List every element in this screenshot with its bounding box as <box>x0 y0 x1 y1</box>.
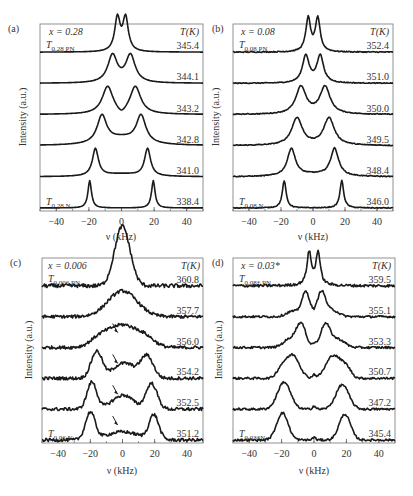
temperature-label: 356.0 <box>177 336 200 347</box>
x-tick-label: 0 <box>312 448 317 459</box>
x-tick-label: 20 <box>340 216 350 227</box>
x-tick-label: −20 <box>81 216 97 227</box>
panel-label: (d) <box>212 257 224 269</box>
temperature-label: 360.8 <box>177 274 200 285</box>
y-axis-label: Intensity (a.u.) <box>213 321 225 380</box>
temperature-label: 346.0 <box>367 196 390 207</box>
temperature-label: 350.0 <box>367 103 390 114</box>
top-transition-label: T0.08 PN <box>239 39 268 53</box>
x-tick-label: 20 <box>341 448 351 459</box>
temperature-label: 357.7 <box>177 305 200 316</box>
temperature-label: 355.1 <box>369 305 392 316</box>
x-axis-label: ν (kHz) <box>106 231 136 243</box>
temp-header: T(K) <box>372 260 392 272</box>
x-axis-label: ν (kHz) <box>299 465 329 477</box>
y-axis-label: Intensity (a.u.) <box>17 88 29 147</box>
x-tick-label: 40 <box>182 448 192 459</box>
panel-a: (a) x = 0.28 T(K) Intensity (a.u.) ν (kH… <box>8 14 203 243</box>
temperature-label: 352.5 <box>177 397 200 408</box>
temperature-label: 344.1 <box>177 71 200 82</box>
temperature-label: 347.2 <box>369 397 392 408</box>
panel-label: (a) <box>8 23 19 35</box>
y-axis-label: Intensity (a.u.) <box>23 321 35 380</box>
temperature-label: 349.5 <box>367 134 390 145</box>
temperature-label: 342.8 <box>177 134 200 145</box>
x-tick-label: −40 <box>50 448 66 459</box>
temperature-label: 343.2 <box>177 103 200 114</box>
panel-label: (b) <box>212 23 224 35</box>
temperature-label: 348.4 <box>367 165 390 176</box>
arrow-head-icon <box>114 359 118 363</box>
x-tick-label: −40 <box>48 216 64 227</box>
arrow-head-icon <box>114 390 118 394</box>
temperature-label: 359.5 <box>369 274 392 285</box>
temperature-label: 352.4 <box>367 40 390 51</box>
composition-label: x = 0.28 <box>48 26 83 37</box>
temperature-label: 354.2 <box>177 366 200 377</box>
x-tick-label: 20 <box>150 448 160 459</box>
x-tick-label: −20 <box>273 216 289 227</box>
x-tick-label: 40 <box>374 448 384 459</box>
x-tick-label: 20 <box>149 216 159 227</box>
temp-header: T(K) <box>181 260 201 272</box>
x-tick-label: −20 <box>274 448 290 459</box>
panel-c: (c) x = 0.006 T(K) Intensity (a.u.) ν (k… <box>10 225 203 477</box>
arrow-head-icon <box>114 421 118 425</box>
composition-label: x = 0.08 <box>240 26 275 37</box>
bottom-transition-label: T0.03*N <box>239 428 265 442</box>
top-transition-label: T0.006 PN <box>48 273 80 287</box>
temperature-label: 351.2 <box>177 428 200 439</box>
x-tick-label: −20 <box>82 448 98 459</box>
temperature-label: 350.7 <box>369 366 392 377</box>
arrow-head-icon <box>114 328 118 332</box>
temperature-label: 351.0 <box>367 71 390 82</box>
x-tick-label: 40 <box>372 216 382 227</box>
temp-header: T(K) <box>370 26 390 38</box>
x-tick-label: −40 <box>241 448 257 459</box>
x-tick-label: 40 <box>182 216 192 227</box>
y-axis-label: Intensity (a.u.) <box>210 88 222 147</box>
x-tick-label: −40 <box>241 216 257 227</box>
temperature-label: 338.4 <box>177 196 200 207</box>
x-axis-label: ν (kHz) <box>107 465 137 477</box>
temp-header: T(K) <box>180 26 200 38</box>
x-axis-label: ν (kHz) <box>298 231 328 243</box>
temperature-label: 353.3 <box>369 336 392 347</box>
temperature-label: 341.0 <box>177 165 200 176</box>
top-transition-label: T0.08* PN <box>239 273 271 287</box>
temperature-label: 345.4 <box>369 428 392 439</box>
composition-label: x = 0.03* <box>240 260 280 271</box>
composition-label: x = 0.006 <box>47 260 87 271</box>
top-transition-label: T0.28 PN <box>46 39 75 53</box>
panel-d: (d) x = 0.03* T(K) Intensity (a.u.) ν (k… <box>212 250 395 477</box>
temperature-label: 345.4 <box>177 40 200 51</box>
figure: (a) x = 0.28 T(K) Intensity (a.u.) ν (kH… <box>0 0 413 496</box>
x-tick-label: 0 <box>120 448 125 459</box>
panel-label: (c) <box>10 257 21 269</box>
x-tick-label: 0 <box>311 216 316 227</box>
panel-b: (b) x = 0.08 T(K) Intensity (a.u.) ν (kH… <box>210 16 393 244</box>
